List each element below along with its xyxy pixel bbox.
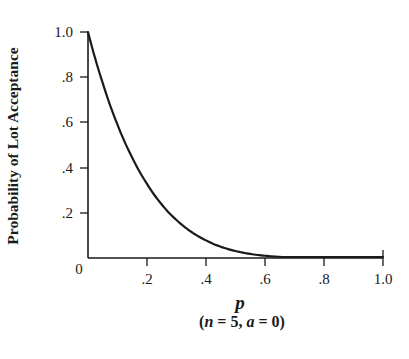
y-tick-label: 1.0 — [54, 24, 73, 40]
oc-curve-line — [88, 32, 383, 257]
x-axis-title: p — [233, 292, 245, 313]
y-tick-label: .8 — [62, 69, 73, 85]
y-tick-label: .4 — [62, 160, 74, 176]
x-tick-label: 1.0 — [374, 271, 393, 287]
x-tick-label: .6 — [259, 271, 271, 287]
subtitle-a-value: = 0) — [254, 313, 284, 331]
subtitle-a-symbol: a — [246, 313, 254, 330]
x-tick-label: .4 — [200, 271, 212, 287]
x-tick-label: .2 — [141, 271, 152, 287]
x-axis-subtitle: (n = 5, a = 0) — [199, 313, 285, 331]
x-tick-labels: .2 .4 .6 .8 1.0 — [141, 271, 392, 287]
x-tick-label: .8 — [318, 271, 329, 287]
y-tick-label: .6 — [62, 114, 74, 130]
y-ticks — [80, 32, 88, 213]
subtitle-n-value: = 5, — [213, 313, 246, 330]
oc-curve-chart: Probability of Lot Acceptance 1.0 .8 .6 … — [0, 0, 409, 359]
y-axis-title: Probability of Lot Acceptance — [4, 47, 21, 244]
subtitle-n-symbol: n — [204, 313, 213, 330]
origin-label: 0 — [75, 261, 83, 277]
y-tick-label: .2 — [62, 205, 73, 221]
axes — [88, 32, 383, 258]
y-tick-labels: 1.0 .8 .6 .4 .2 — [54, 24, 73, 221]
